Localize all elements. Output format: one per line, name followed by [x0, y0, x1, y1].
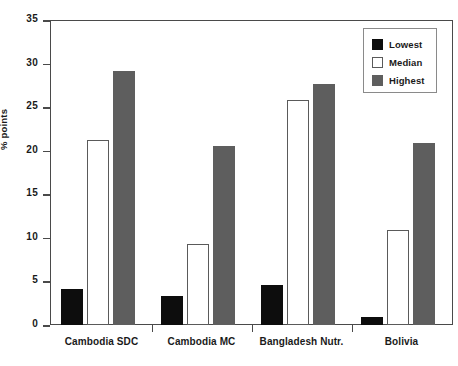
legend-label: Lowest	[389, 39, 422, 50]
y-tick: 15	[0, 194, 50, 195]
x-axis-label: Bangladesh Nutr.	[252, 336, 352, 347]
bar-median	[387, 230, 409, 325]
bar-highest	[313, 84, 335, 325]
y-tick-label: 35	[26, 13, 38, 24]
y-tick-mark	[43, 325, 50, 327]
y-tick-label: 30	[26, 57, 38, 68]
legend-item: Median	[372, 54, 436, 71]
y-tick-label: 15	[26, 187, 38, 198]
y-tick-mark	[43, 194, 50, 196]
bar-median	[87, 140, 109, 325]
legend-item: Highest	[372, 72, 436, 89]
y-tick-label: 5	[32, 274, 38, 285]
bar-lowest	[261, 285, 283, 325]
y-tick: 10	[0, 238, 50, 239]
x-axis-label: Cambodia MC	[152, 336, 252, 347]
bar-highest	[113, 71, 135, 325]
x-axis-label: Cambodia SDC	[52, 336, 152, 347]
y-tick-label: 25	[26, 100, 38, 111]
y-tick-label: 0	[32, 318, 38, 329]
bar-lowest	[361, 317, 383, 325]
x-tick-mark	[352, 325, 354, 332]
legend-item: Lowest	[372, 36, 436, 53]
y-tick-mark	[43, 64, 50, 66]
y-tick-mark	[43, 20, 50, 22]
bar-median	[287, 100, 309, 325]
legend-swatch-highest	[372, 75, 383, 86]
y-tick: 20	[0, 151, 50, 152]
y-tick: 35	[0, 20, 50, 21]
bar-median	[187, 244, 209, 325]
y-tick-mark	[43, 151, 50, 153]
legend-swatch-lowest	[372, 39, 383, 50]
y-tick: 0	[0, 325, 50, 326]
bar-highest	[213, 146, 235, 325]
legend-swatch-median	[372, 57, 383, 68]
x-tick-mark	[152, 325, 154, 332]
y-tick-label: 20	[26, 144, 38, 155]
y-tick: 25	[0, 107, 50, 108]
y-tick-mark	[43, 107, 50, 109]
bar-lowest	[61, 289, 83, 325]
legend-label: Highest	[389, 75, 425, 86]
y-tick-mark	[43, 281, 50, 283]
x-axis-label: Bolivia	[352, 336, 452, 347]
y-axis-title: % points	[0, 30, 9, 150]
y-tick-mark	[43, 238, 50, 240]
legend-label: Median	[389, 57, 422, 68]
bar-lowest	[161, 296, 183, 325]
x-tick-mark	[252, 325, 254, 332]
bar-highest	[413, 143, 435, 325]
bar-chart: % points 05101520253035 Cambodia SDCCamb…	[0, 0, 458, 366]
y-tick: 5	[0, 281, 50, 282]
legend: LowestMedianHighest	[363, 28, 437, 93]
y-tick: 30	[0, 64, 50, 65]
y-tick-label: 10	[26, 231, 38, 242]
